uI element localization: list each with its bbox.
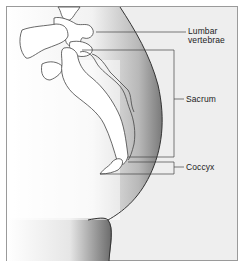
label-lumbar-vertebrae: Lumbar vertebrae <box>188 27 225 45</box>
label-lumbar-line2: vertebrae <box>188 36 225 45</box>
label-coccyx: Coccyx <box>186 163 214 172</box>
label-sacrum: Sacrum <box>186 95 216 104</box>
